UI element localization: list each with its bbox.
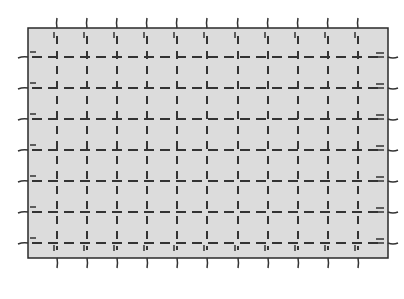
- bottom-tick-mark: [147, 258, 148, 268]
- top-tick-mark: [268, 18, 269, 28]
- top-tick-mark: [147, 18, 148, 28]
- top-tick-mark: [298, 18, 299, 28]
- left-tick-mark: [18, 150, 28, 151]
- right-tick-mark: [388, 150, 398, 151]
- left-tick-mark: [18, 119, 28, 120]
- right-tick-mark: [388, 119, 398, 120]
- left-tick-mark: [18, 181, 28, 182]
- top-tick-mark: [57, 18, 58, 28]
- top-tick-mark: [358, 18, 359, 28]
- left-tick-mark: [18, 88, 28, 89]
- right-tick-mark: [388, 243, 398, 244]
- right-tick-mark: [388, 88, 398, 89]
- right-tick-mark: [388, 212, 398, 213]
- left-tick-mark: [18, 57, 28, 58]
- top-tick-mark: [238, 18, 239, 28]
- bottom-tick-mark: [177, 258, 178, 268]
- bottom-tick-mark: [117, 258, 118, 268]
- bottom-tick-mark: [328, 258, 329, 268]
- bottom-tick-mark: [87, 258, 88, 268]
- top-tick-mark: [87, 18, 88, 28]
- bottom-tick-mark: [298, 258, 299, 268]
- top-tick-mark: [207, 18, 208, 28]
- top-tick-mark: [328, 18, 329, 28]
- bottom-tick-mark: [268, 258, 269, 268]
- bottom-tick-mark: [57, 258, 58, 268]
- top-tick-mark: [117, 18, 118, 28]
- bottom-tick-mark: [238, 258, 239, 268]
- right-tick-mark: [388, 181, 398, 182]
- top-tick-mark: [177, 18, 178, 28]
- bottom-tick-mark: [207, 258, 208, 268]
- left-tick-mark: [18, 243, 28, 244]
- right-tick-mark: [388, 57, 398, 58]
- bottom-tick-mark: [358, 258, 359, 268]
- grid-diagram: [0, 0, 404, 299]
- left-tick-mark: [18, 212, 28, 213]
